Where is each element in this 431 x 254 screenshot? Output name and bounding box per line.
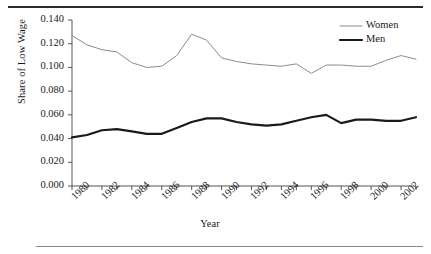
figure-container: Share of Low Wage Year 0.0000.0200.0400.… — [0, 0, 431, 254]
x-axis-title: Year — [150, 218, 270, 229]
y-tick-label: 0.040 — [18, 132, 64, 143]
y-tick-label: 0.060 — [18, 108, 64, 119]
y-tick-label: 0.080 — [18, 84, 64, 95]
legend-label-women: Women — [366, 19, 398, 30]
y-tick-label: 0.140 — [18, 13, 64, 24]
series-line-men — [72, 115, 416, 138]
axis-spines — [72, 20, 416, 186]
y-tick-label: 0.020 — [18, 155, 64, 166]
y-tick-label: 0.000 — [18, 179, 64, 190]
y-tick-label: 0.120 — [18, 37, 64, 48]
series-line-women — [72, 34, 416, 73]
y-tick-label: 0.100 — [18, 60, 64, 71]
legend-label-men: Men — [366, 33, 385, 44]
